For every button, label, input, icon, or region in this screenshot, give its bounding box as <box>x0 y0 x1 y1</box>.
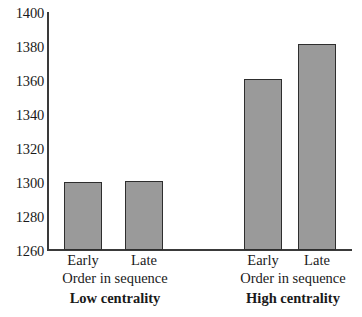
group-title-low-centrality: Low centrality <box>25 290 205 307</box>
bar-low-early <box>64 182 102 250</box>
bar-high-early <box>244 79 282 250</box>
y-tick-label: 1260 <box>0 244 44 259</box>
y-axis-line <box>47 12 49 251</box>
x-axis-title-low: Order in sequence <box>25 270 205 287</box>
group-title-high-centrality: High centrality <box>203 290 362 307</box>
y-tick-label: 1280 <box>0 210 44 225</box>
y-tick-label: 1340 <box>0 108 44 123</box>
bar-low-late <box>125 181 163 250</box>
bar-chart-figure: 1400 1380 1360 1340 1320 1300 1280 1260 … <box>0 0 362 317</box>
x-axis-title-high: Order in sequence <box>203 270 362 287</box>
x-tick-label-high-late: Late <box>280 252 354 269</box>
x-tick-label-low-late: Late <box>107 252 181 269</box>
y-tick-label: 1380 <box>0 40 44 55</box>
y-tick-label: 1320 <box>0 142 44 157</box>
bar-high-late <box>298 44 336 251</box>
y-tick-label: 1360 <box>0 74 44 89</box>
y-tick-label: 1300 <box>0 176 44 191</box>
y-tick-label: 1400 <box>0 6 44 21</box>
